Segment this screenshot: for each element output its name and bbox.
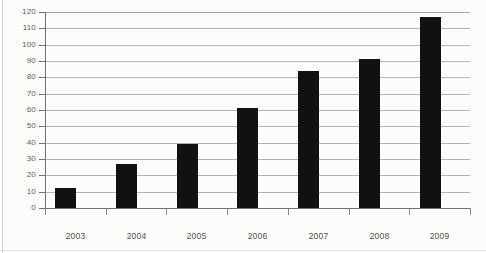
- scan-edge-left: [2, 0, 3, 253]
- x-tick-0: [106, 209, 107, 215]
- x-axis-label-2007: 2007: [288, 232, 349, 241]
- bar-2005: [177, 144, 198, 208]
- x-axis-label-2003: 2003: [45, 232, 106, 241]
- x-axis-label-2005: 2005: [166, 232, 227, 241]
- y-axis-label-50: 50: [6, 122, 36, 130]
- x-axis-label-2006: 2006: [227, 232, 288, 241]
- scan-edge-bottom: [0, 250, 486, 251]
- y-axis-label-0: 0: [6, 204, 36, 212]
- x-axis-line: [45, 208, 471, 209]
- plot-area: [45, 12, 470, 208]
- x-axis-label-2004: 2004: [106, 232, 167, 241]
- y-axis-label-70: 70: [6, 90, 36, 98]
- y-axis-label-110: 110: [6, 24, 36, 32]
- y-axis-label-30: 30: [6, 155, 36, 163]
- x-tick-3: [288, 209, 289, 215]
- x-axis-label-2008: 2008: [349, 232, 410, 241]
- bar-chart: 0102030405060708090100110120 20032004200…: [0, 0, 486, 253]
- bar-2008: [359, 59, 380, 208]
- x-tick-4: [349, 209, 350, 215]
- y-axis-label-120: 120: [6, 8, 36, 16]
- bar-2006: [237, 108, 258, 208]
- y-axis-label-60: 60: [6, 106, 36, 114]
- x-axis-label-2009: 2009: [409, 232, 470, 241]
- y-axis-label-90: 90: [6, 57, 36, 65]
- bar-2009: [420, 17, 441, 208]
- x-tick-5: [409, 209, 410, 215]
- y-axis-label-80: 80: [6, 73, 36, 81]
- y-axis-label-100: 100: [6, 41, 36, 49]
- y-axis-label-10: 10: [6, 188, 36, 196]
- bar-2007: [298, 71, 319, 208]
- x-tick-2: [227, 209, 228, 215]
- y-axis-label-20: 20: [6, 171, 36, 179]
- x-tick-origin: [45, 209, 46, 215]
- bar-2004: [116, 164, 137, 208]
- bar-2003: [55, 188, 76, 208]
- y-axis-label-40: 40: [6, 139, 36, 147]
- x-tick-1: [166, 209, 167, 215]
- x-tick-6: [470, 209, 471, 215]
